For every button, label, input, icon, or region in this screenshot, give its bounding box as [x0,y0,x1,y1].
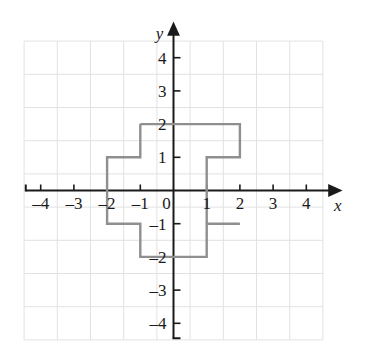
y-axis-label: y [154,24,164,43]
x-tick-label-4: 4 [302,194,311,213]
x-tick-label--4: –4 [31,194,50,213]
x-tick-label--1: –1 [131,194,149,213]
coordinate-plane-figure: –4–3–2–112344321–1–2–3–40xy [0,0,381,357]
x-tick-label-1: 1 [202,194,211,213]
x-tick-label-3: 3 [269,194,278,213]
y-tick-label-3: 3 [158,82,167,101]
x-tick-label-2: 2 [236,194,245,213]
y-tick-label--4: –4 [149,314,168,333]
axis-tick-labels: –4–3–2–112344321–1–2–3–40xy [31,24,342,333]
axes [26,34,330,338]
y-tick-label-2: 2 [158,115,167,134]
graph-canvas: –4–3–2–112344321–1–2–3–40xy [0,0,381,357]
x-tick-label--2: –2 [98,194,116,213]
x-axis-label: x [333,196,342,215]
y-tick-label-4: 4 [158,49,167,68]
x-tick-label--3: –3 [64,194,82,213]
y-tick-label--1: –1 [149,215,167,234]
y-tick-label-1: 1 [158,148,167,167]
y-tick-label--3: –3 [149,281,167,300]
y-tick-label--2: –2 [149,248,167,267]
origin-label: 0 [162,194,171,213]
